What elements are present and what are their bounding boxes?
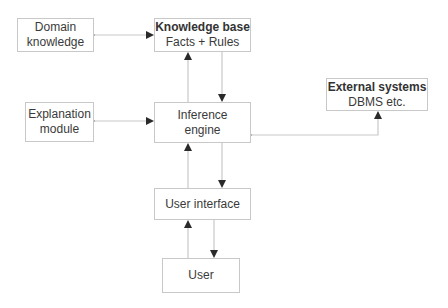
node-domain-knowledge: Domain knowledge [17,18,94,52]
node-inference-engine: Inference engine [154,102,251,143]
node-user-interface: User interface [154,188,251,220]
inference-line1: Inference [177,108,227,123]
node-knowledge-base: Knowledge base Facts + Rules [154,18,251,52]
domain-knowledge-line1: Domain [35,20,76,35]
external-systems-subtitle: DBMS etc. [348,95,405,110]
arrow-ext-ie [251,112,378,135]
knowledge-base-subtitle: Facts + Rules [166,35,240,50]
node-explanation-module: Explanation module [25,102,94,142]
user-interface-label: User interface [165,197,240,212]
node-external-systems: External systems DBMS etc. [326,78,428,111]
user-label: User [188,268,213,283]
explanation-line1: Explanation [28,107,91,122]
domain-knowledge-line2: knowledge [27,35,84,50]
inference-line2: engine [184,123,220,138]
knowledge-base-title: Knowledge base [155,20,250,35]
explanation-line2: module [40,122,79,137]
external-systems-title: External systems [328,80,427,95]
node-user: User [162,258,240,293]
